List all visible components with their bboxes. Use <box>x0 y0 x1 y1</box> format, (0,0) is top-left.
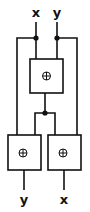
input-label-y: y <box>53 5 62 20</box>
junction-dot-y <box>54 35 59 40</box>
xor-icon <box>59 149 67 157</box>
junction-dot-middle <box>42 110 47 115</box>
junction-dot-x <box>33 35 38 40</box>
xor-icon <box>43 72 51 80</box>
output-label-y: y <box>20 192 29 207</box>
xor-swap-diagram: x y y x <box>0 0 90 212</box>
output-label-x: x <box>60 192 69 207</box>
input-label-x: x <box>32 5 41 20</box>
xor-icon <box>19 149 27 157</box>
split-wire <box>35 113 55 135</box>
